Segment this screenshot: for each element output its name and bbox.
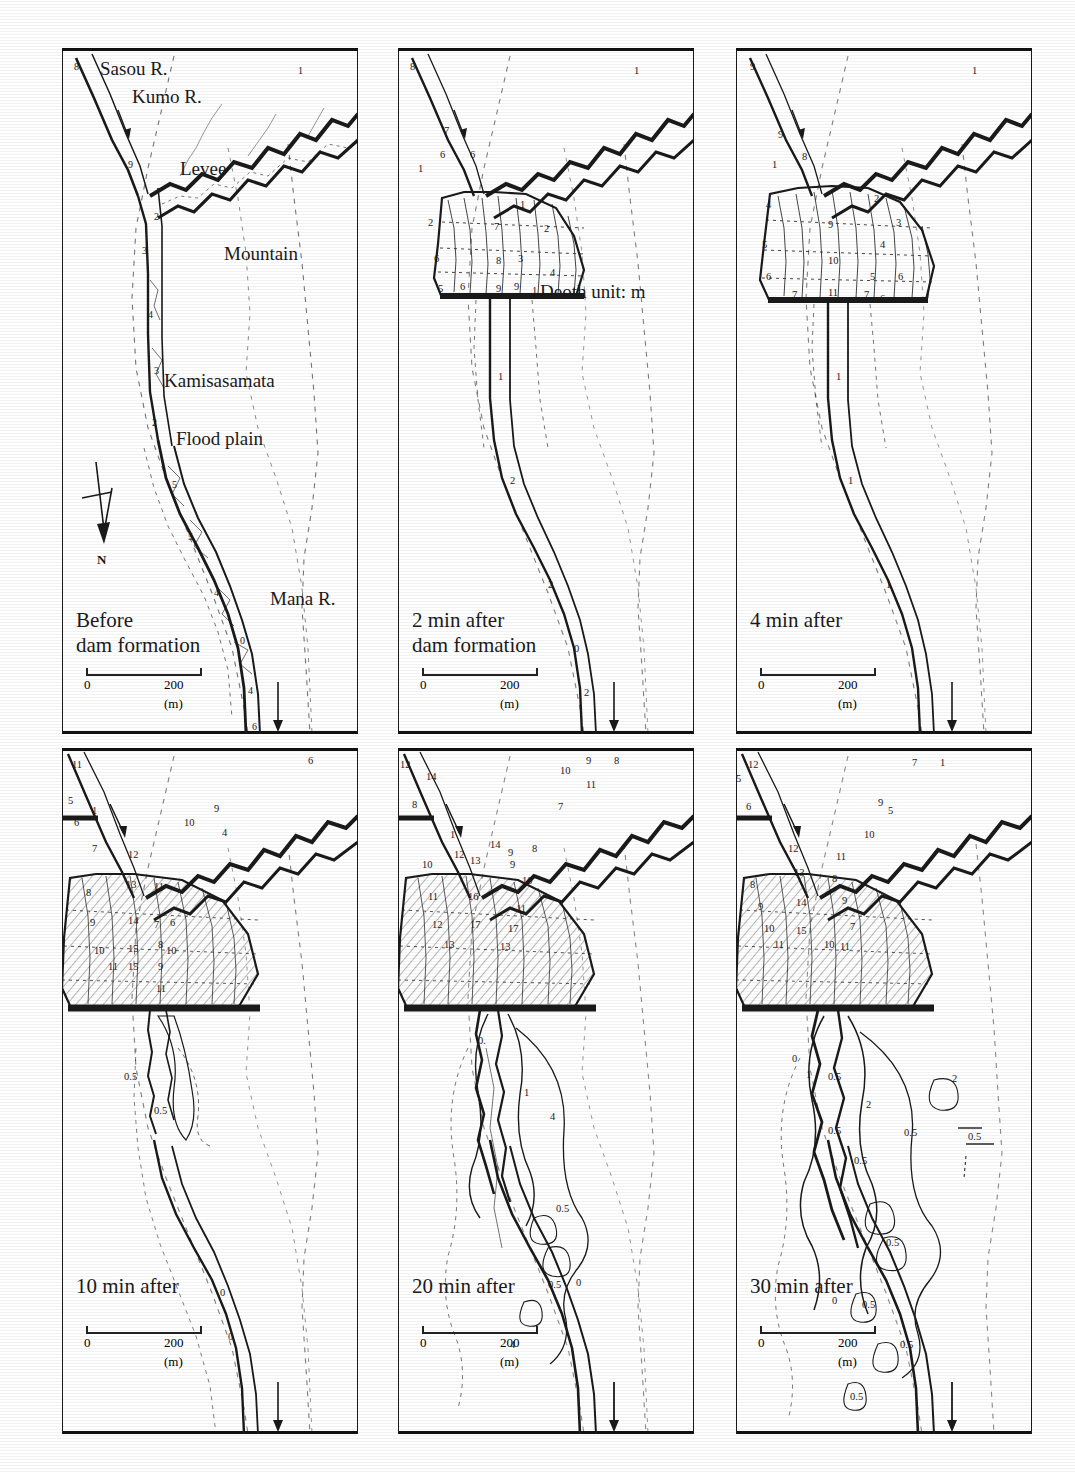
svg-text:0: 0 [220,1287,225,1298]
panel-before: 8 9 2 3 4 3 2 5 5 4 0 4 6 1 Sasou R. Kum [62,48,358,734]
svg-text:1: 1 [418,163,423,174]
scale-tick-200: 200 [500,1335,520,1351]
svg-text:9: 9 [510,859,515,870]
label-kamisasamata: Kamisasamata [164,370,275,392]
svg-text:8: 8 [410,61,415,72]
svg-text:2: 2 [544,223,549,234]
scale-tick-0: 0 [420,1335,427,1351]
svg-text:12: 12 [788,843,799,854]
svg-text:4: 4 [550,267,556,278]
panel-time-label-20min: 20 min after [412,1274,515,1299]
svg-text:6: 6 [440,149,445,160]
svg-text:9: 9 [128,159,133,170]
svg-text:12: 12 [454,849,465,860]
svg-text:10: 10 [764,923,775,934]
svg-text:6: 6 [434,253,439,264]
panel-time-label-before: Before dam formation [76,608,200,658]
north-arrow [78,458,124,554]
svg-text:8: 8 [532,843,537,854]
scale-bar-line [422,668,538,676]
svg-text:9: 9 [778,129,783,140]
svg-text:7: 7 [558,801,563,812]
panel-4min: 9 9 1 8 4 5 6 7 9 10 11 7 6 2 4 5 3 [736,48,1032,734]
svg-text:15: 15 [796,925,807,936]
svg-text:1: 1 [972,65,977,76]
scale-unit: (m) [164,696,183,712]
time-line-2: dam formation [76,633,200,658]
time-line-1: 10 min after [76,1274,179,1299]
svg-text:9: 9 [514,281,519,292]
svg-text:10: 10 [422,859,433,870]
svg-text:7: 7 [92,843,97,854]
label-mountain: Mountain [224,243,298,265]
svg-text:5: 5 [172,479,177,490]
svg-text:12: 12 [128,849,139,860]
svg-text:11: 11 [72,759,82,770]
svg-text:8: 8 [802,151,807,162]
svg-text:12: 12 [400,759,411,770]
svg-text:2: 2 [152,417,157,428]
scale-unit: (m) [838,696,857,712]
svg-text:2: 2 [874,193,879,204]
scale-unit: (m) [838,1354,857,1370]
svg-text:7: 7 [864,289,869,300]
panel-time-label-4min: 4 min after [750,608,842,633]
scale-unit: (m) [164,1354,183,1370]
svg-text:4: 4 [550,1111,556,1122]
svg-text:2: 2 [584,687,589,698]
svg-text:7: 7 [494,221,499,232]
svg-text:0.5: 0.5 [548,1279,561,1290]
svg-text:9: 9 [90,917,95,928]
svg-text:9: 9 [508,847,513,858]
svg-text:7: 7 [792,289,797,300]
svg-text:8: 8 [74,61,79,72]
svg-text:10: 10 [94,945,105,956]
svg-text:5: 5 [68,795,73,806]
scale-bar-line [86,668,202,676]
svg-text:4: 4 [222,827,228,838]
svg-text:13: 13 [126,879,137,890]
svg-text:1: 1 [772,159,777,170]
svg-text:13: 13 [444,939,455,950]
svg-text:0.5: 0.5 [886,1237,899,1248]
svg-text:14: 14 [128,915,139,926]
scale-tick-0: 0 [420,677,427,693]
svg-text:0.5: 0.5 [904,1127,917,1138]
scale-tick-200: 200 [164,677,184,693]
svg-text:8: 8 [496,255,501,266]
svg-text:1: 1 [532,285,537,296]
svg-text:2: 2 [510,475,515,486]
svg-text:0: 0 [574,643,579,654]
svg-text:0: 0 [228,1331,233,1342]
svg-text:4: 4 [148,309,153,320]
svg-text:10: 10 [166,945,177,956]
svg-text:17: 17 [508,923,519,934]
svg-text:8: 8 [412,799,417,810]
svg-text:4: 4 [214,587,219,598]
svg-text:9: 9 [758,901,763,912]
scale-tick-0: 0 [84,1335,91,1351]
svg-text:10: 10 [828,255,839,266]
svg-text:0: 0 [576,1277,581,1288]
svg-text:8: 8 [832,873,837,884]
svg-text:1: 1 [450,829,455,840]
panel-30min: 12 5 6 12 13 14 15 8 9 10 11 11 8 9 7 11 [736,748,1032,1434]
svg-text:0.: 0. [478,1035,486,1046]
svg-text:0.5: 0.5 [556,1203,569,1214]
svg-text:3: 3 [142,245,147,256]
svg-text:6: 6 [252,721,257,732]
svg-text:9: 9 [842,895,847,906]
svg-text:6: 6 [470,149,475,160]
label-mana-river: Mana R. [270,588,335,610]
svg-text:9: 9 [828,219,833,230]
north-label: N [97,552,106,568]
svg-text:0: 0 [240,635,245,646]
depth-unit-note: Deoth unit: m [540,281,646,303]
svg-text:15: 15 [128,943,139,954]
scale-bar-line [760,668,876,676]
svg-text:1: 1 [92,805,97,816]
svg-text:11: 11 [156,983,166,994]
panel-20min: 12 14 8 1 12 13 16 17 10 11 12 13 14 9 8… [398,748,694,1434]
svg-text:0: 0 [792,1053,797,1064]
svg-text:10: 10 [864,829,875,840]
